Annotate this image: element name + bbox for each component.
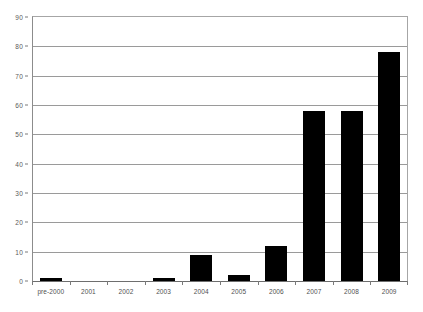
x-axis-ticks — [32, 281, 408, 285]
bar[interactable] — [303, 111, 325, 281]
y-tick-label: 40 — [15, 160, 23, 167]
bar-slot — [295, 16, 333, 281]
x-tick-label: 2006 — [258, 288, 296, 302]
bar-slot — [182, 16, 220, 281]
bars-layer — [32, 16, 408, 281]
y-tick-mark — [25, 46, 28, 47]
x-axis-end-tick — [407, 281, 408, 285]
x-tick-mark — [107, 281, 108, 285]
x-tick-label: pre-2000 — [32, 288, 70, 302]
y-tick-mark — [25, 281, 28, 282]
y-tick-label: 80 — [15, 43, 23, 50]
y-tick-label: 10 — [15, 248, 23, 255]
x-tick-label: 2001 — [70, 288, 108, 302]
y-tick-mark — [25, 222, 28, 223]
y-tick-mark — [25, 251, 28, 252]
bar-slot — [333, 16, 371, 281]
x-tick-label: 2007 — [295, 288, 333, 302]
bar-slot — [32, 16, 70, 281]
y-axis: 0102030405060708090 — [0, 16, 28, 282]
y-tick-label: 20 — [15, 219, 23, 226]
x-tick-mark — [32, 281, 33, 285]
y-tick-label: 30 — [15, 190, 23, 197]
y-tick-mark — [25, 105, 28, 106]
x-tick-label: 2009 — [370, 288, 408, 302]
x-tick-slot — [295, 281, 333, 285]
x-tick-slot — [220, 281, 258, 285]
x-tick-label: 2005 — [220, 288, 258, 302]
bar[interactable] — [190, 255, 212, 281]
x-tick-slot — [258, 281, 296, 285]
bar-slot — [220, 16, 258, 281]
bar-slot — [145, 16, 183, 281]
y-tick-label: 0 — [19, 278, 23, 285]
bar-slot — [258, 16, 296, 281]
bar-chart-figure: 0102030405060708090 pre-2000200120022003… — [0, 0, 423, 312]
x-tick-mark — [333, 281, 334, 285]
x-tick-label: 2004 — [182, 288, 220, 302]
y-tick-mark — [25, 163, 28, 164]
y-tick-label: 90 — [15, 14, 23, 21]
x-tick-label: 2003 — [145, 288, 183, 302]
bar[interactable] — [265, 246, 287, 281]
x-tick-slot — [182, 281, 220, 285]
x-tick-label: 2002 — [107, 288, 145, 302]
x-tick-mark — [258, 281, 259, 285]
x-tick-slot — [107, 281, 145, 285]
x-tick-slot — [145, 281, 183, 285]
bar-slot — [370, 16, 408, 281]
y-tick-mark — [25, 75, 28, 76]
x-tick-slot — [333, 281, 371, 285]
x-tick-mark — [182, 281, 183, 285]
x-tick-label: 2008 — [333, 288, 371, 302]
bar-slot — [70, 16, 108, 281]
y-tick-label: 70 — [15, 72, 23, 79]
bar[interactable] — [378, 52, 400, 281]
x-tick-mark — [220, 281, 221, 285]
y-tick-label: 50 — [15, 131, 23, 138]
y-tick-mark — [25, 134, 28, 135]
x-tick-slot — [370, 281, 408, 285]
x-tick-mark — [70, 281, 71, 285]
y-tick-mark — [25, 193, 28, 194]
x-axis-labels: pre-200020012002200320042005200620072008… — [32, 288, 408, 302]
y-tick-label: 60 — [15, 102, 23, 109]
x-tick-slot — [70, 281, 108, 285]
bar-slot — [107, 16, 145, 281]
x-tick-mark — [295, 281, 296, 285]
x-tick-slot — [32, 281, 70, 285]
bar[interactable] — [341, 111, 363, 281]
y-tick-mark — [25, 17, 28, 18]
x-tick-mark — [370, 281, 371, 285]
x-tick-mark — [145, 281, 146, 285]
